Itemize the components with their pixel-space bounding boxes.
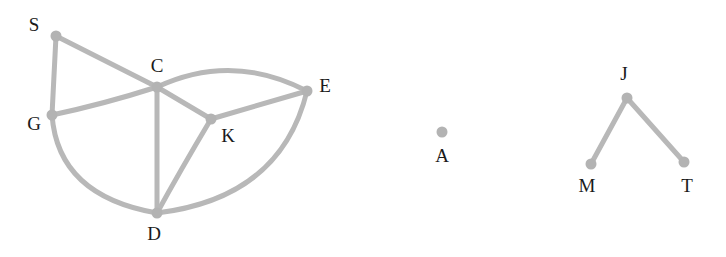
- graph-node-label-M: M: [579, 175, 596, 196]
- graph-diagram-canvas: SGCKEDAJMT: [0, 0, 726, 257]
- graph-edge-G-C: [52, 87, 157, 115]
- graph-node-A[interactable]: [437, 127, 448, 138]
- graph-node-label-E: E: [319, 75, 331, 96]
- graph-edge-K-E: [211, 91, 307, 119]
- graph-node-label-J: J: [620, 63, 627, 84]
- graph-edge-J-T: [627, 98, 684, 162]
- graph-edge-J-M: [591, 98, 627, 164]
- graph-edge-C-E: [157, 70, 307, 91]
- graph-edge-D-E: [157, 91, 307, 213]
- graph-node-G[interactable]: [47, 110, 58, 121]
- graph-edge-G-D: [52, 115, 157, 213]
- graph-node-E[interactable]: [302, 86, 313, 97]
- graph-node-label-D: D: [147, 223, 161, 244]
- graph-node-S[interactable]: [51, 31, 62, 42]
- graph-node-J[interactable]: [622, 93, 633, 104]
- graph-edge-S-G: [52, 36, 56, 115]
- graph-node-label-T: T: [681, 175, 693, 196]
- graph-node-D[interactable]: [152, 208, 163, 219]
- graph-node-label-G: G: [27, 113, 41, 134]
- graph-node-T[interactable]: [679, 157, 690, 168]
- graph-edge-K-D: [157, 119, 211, 213]
- graph-node-label-C: C: [151, 55, 164, 76]
- graph-svg: SGCKEDAJMT: [0, 0, 726, 257]
- graph-node-C[interactable]: [152, 82, 163, 93]
- graph-node-K[interactable]: [206, 114, 217, 125]
- graph-edge-S-C: [56, 36, 157, 87]
- graph-node-M[interactable]: [586, 159, 597, 170]
- labels-layer: SGCKEDAJMT: [27, 14, 693, 244]
- graph-node-label-A: A: [435, 145, 449, 166]
- graph-node-label-K: K: [221, 125, 235, 146]
- graph-edge-C-K: [157, 87, 211, 119]
- graph-node-label-S: S: [29, 14, 40, 35]
